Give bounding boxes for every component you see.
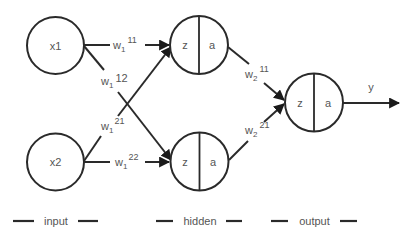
weight-label-w1-21: w121 <box>100 116 124 135</box>
layer-label-text: input <box>44 215 68 227</box>
node-label: x1 <box>50 40 62 52</box>
weight-label-w1-22: w122 <box>114 152 138 171</box>
weight-label-w2-11: w211 <box>244 64 269 83</box>
hidden-node-1: z a <box>170 16 228 74</box>
layer-label-hidden: hidden <box>156 215 242 227</box>
a-label: a <box>209 39 216 51</box>
layer-label-input: input <box>13 215 98 227</box>
a-label: a <box>210 156 217 168</box>
layer-label-text: output <box>299 215 330 227</box>
output-y-label: y <box>368 81 374 93</box>
layer-label-text: hidden <box>183 215 216 227</box>
output-node: z a <box>285 74 343 132</box>
layer-label-output: output <box>271 215 357 227</box>
hidden-node-2: z a <box>171 133 229 191</box>
input-node-x2: x2 <box>27 134 84 191</box>
input-node-x1: x1 <box>27 17 84 74</box>
a-label: a <box>325 97 332 109</box>
z-label: z <box>297 97 303 109</box>
z-label: z <box>182 156 188 168</box>
z-label: z <box>182 39 188 51</box>
weight-label-w1-11: w111 <box>112 35 137 54</box>
neural-network-diagram: x1 x2 z a z a z a y w111 w112 w121 w122 … <box>0 0 416 240</box>
node-label: x2 <box>50 156 62 168</box>
weight-label-w1-12: w112 <box>100 72 128 90</box>
weight-label-w2-21: w221 <box>244 120 269 139</box>
